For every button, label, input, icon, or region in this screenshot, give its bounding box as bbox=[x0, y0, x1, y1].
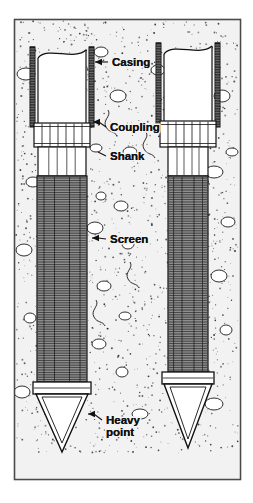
stipple-dot bbox=[18, 338, 19, 339]
stipple-dot bbox=[139, 392, 141, 394]
stipple-dot bbox=[76, 36, 77, 37]
stipple-dot bbox=[16, 103, 17, 104]
stipple-dot bbox=[138, 290, 140, 292]
stipple-dot bbox=[165, 177, 167, 179]
label-screen: Screen bbox=[110, 233, 148, 245]
stipple-dot bbox=[159, 287, 161, 289]
stipple-dot bbox=[175, 47, 176, 48]
stipple-dot bbox=[95, 433, 96, 434]
stipple-dot bbox=[165, 21, 166, 22]
stipple-dot bbox=[53, 440, 55, 442]
stipple-dot bbox=[31, 371, 33, 373]
stipple-dot bbox=[23, 277, 24, 278]
pebble bbox=[110, 90, 126, 102]
stipple-dot bbox=[211, 413, 213, 415]
stipple-dot bbox=[114, 144, 115, 145]
stipple-dot bbox=[152, 382, 153, 383]
stipple-dot bbox=[168, 443, 169, 444]
stipple-dot bbox=[32, 171, 33, 172]
stipple-dot bbox=[98, 58, 99, 59]
stipple-dot bbox=[27, 54, 29, 56]
stipple-dot bbox=[137, 387, 138, 388]
stipple-dot bbox=[164, 425, 166, 427]
stipple-dot bbox=[135, 320, 137, 322]
stipple-dot bbox=[90, 168, 92, 170]
pebble bbox=[94, 47, 108, 57]
stipple-dot bbox=[88, 235, 89, 236]
stipple-dot bbox=[24, 362, 26, 364]
stipple-dot bbox=[153, 95, 154, 96]
stipple-dot bbox=[228, 276, 229, 277]
stipple-dot bbox=[144, 81, 146, 83]
stipple-dot bbox=[153, 32, 155, 34]
stipple-dot bbox=[86, 37, 87, 38]
stipple-dot bbox=[223, 384, 224, 385]
well-point-cross-section-diagram: CasingCasingCouplingCouplingShankShankSc… bbox=[0, 0, 253, 503]
stipple-dot bbox=[95, 260, 97, 262]
stipple-dot bbox=[237, 246, 238, 247]
stipple-dot bbox=[103, 59, 104, 60]
stipple-dot bbox=[233, 177, 234, 178]
stipple-dot bbox=[87, 67, 89, 69]
stipple-dot bbox=[143, 325, 144, 326]
stipple-dot bbox=[234, 70, 236, 72]
stipple-dot bbox=[91, 240, 93, 242]
stipple-dot bbox=[33, 380, 34, 381]
stipple-dot bbox=[45, 425, 47, 427]
stipple-dot bbox=[32, 20, 34, 22]
stipple-dot bbox=[48, 434, 49, 435]
stipple-dot bbox=[116, 228, 117, 229]
stipple-dot bbox=[113, 373, 114, 374]
stipple-dot bbox=[92, 274, 93, 275]
stipple-dot bbox=[66, 38, 67, 39]
stipple-dot bbox=[108, 388, 109, 389]
stipple-dot bbox=[144, 386, 146, 388]
stipple-dot bbox=[109, 445, 110, 446]
stipple-dot bbox=[151, 224, 153, 226]
stipple-dot bbox=[141, 266, 142, 267]
stipple-dot bbox=[128, 108, 129, 109]
stipple-dot bbox=[52, 439, 54, 441]
stipple-dot bbox=[223, 198, 224, 199]
stipple-dot bbox=[210, 425, 212, 427]
stipple-dot bbox=[131, 109, 132, 110]
stipple-dot bbox=[21, 189, 23, 191]
stipple-dot bbox=[210, 147, 212, 149]
stipple-dot bbox=[97, 411, 98, 412]
label-heavy-point-2: point bbox=[106, 426, 134, 438]
stipple-dot bbox=[216, 210, 218, 212]
stipple-dot bbox=[145, 271, 147, 273]
stipple-dot bbox=[157, 239, 158, 240]
stipple-dot bbox=[103, 294, 104, 295]
stipple-dot bbox=[23, 151, 24, 152]
stipple-dot bbox=[103, 86, 105, 88]
stipple-dot bbox=[154, 299, 155, 300]
stipple-dot bbox=[235, 431, 236, 432]
stipple-dot bbox=[158, 214, 160, 216]
stipple-dot bbox=[24, 81, 25, 82]
stipple-dot bbox=[213, 248, 214, 249]
stipple-dot bbox=[229, 249, 231, 251]
stipple-dot bbox=[18, 262, 20, 264]
stipple-dot bbox=[173, 23, 174, 24]
stipple-dot bbox=[106, 91, 107, 92]
stipple-dot bbox=[224, 108, 226, 110]
stipple-dot bbox=[117, 271, 119, 273]
stipple-dot bbox=[213, 187, 215, 189]
stipple-dot bbox=[134, 274, 135, 275]
stipple-dot bbox=[155, 184, 156, 185]
stipple-dot bbox=[71, 44, 73, 46]
stipple-dot bbox=[90, 280, 91, 281]
stipple-dot bbox=[214, 218, 216, 220]
stipple-dot bbox=[99, 171, 100, 172]
stipple-dot bbox=[159, 285, 160, 286]
stipple-dot bbox=[158, 449, 160, 451]
stipple-dot bbox=[71, 40, 72, 41]
stipple-dot bbox=[95, 394, 97, 396]
stipple-dot bbox=[116, 32, 117, 33]
stipple-dot bbox=[99, 367, 101, 369]
stipple-dot bbox=[158, 169, 160, 171]
stipple-dot bbox=[140, 52, 141, 53]
stipple-dot bbox=[92, 327, 94, 329]
stipple-dot bbox=[34, 374, 35, 375]
